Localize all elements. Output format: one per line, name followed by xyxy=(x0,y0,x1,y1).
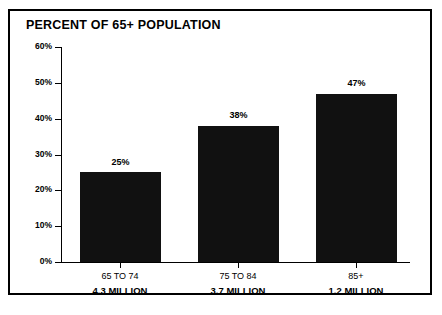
x-axis-category-sublabel-3: 1.2 MILLION xyxy=(296,286,416,296)
x-axis-tick-3 xyxy=(356,263,357,268)
y-axis-label-20: 20% xyxy=(16,185,52,194)
y-axis-label-0: 0% xyxy=(16,257,52,266)
x-axis-category-name-1: 65 TO 74 xyxy=(60,272,180,281)
y-axis-label-30: 30% xyxy=(16,150,52,159)
x-axis-category-name-3: 85+ xyxy=(296,272,416,281)
x-axis-tick-2 xyxy=(238,263,239,268)
bar-value-label-85-plus: 47% xyxy=(316,79,397,88)
x-axis-category-75-to-84: 75 TO 84 3.7 MILLION xyxy=(178,272,298,296)
y-axis-tick-30 xyxy=(55,155,61,156)
bar-75-to-84 xyxy=(198,126,279,262)
y-axis-label-50: 50% xyxy=(16,78,52,87)
x-axis-line xyxy=(61,262,410,263)
y-axis-label-40: 40% xyxy=(16,114,52,123)
chart-figure: PERCENT OF 65+ POPULATION 60% 50% 40% 30… xyxy=(0,0,442,315)
y-axis-tick-50 xyxy=(55,83,61,84)
chart-title: PERCENT OF 65+ POPULATION xyxy=(26,18,221,32)
bar-85-plus xyxy=(316,94,397,262)
y-axis-tick-10 xyxy=(55,226,61,227)
x-axis-category-65-to-74: 65 TO 74 4.3 MILLION xyxy=(60,272,180,296)
y-axis-tick-40 xyxy=(55,119,61,120)
bar-value-label-75-to-84: 38% xyxy=(198,111,279,120)
x-axis-category-85-plus: 85+ 1.2 MILLION xyxy=(296,272,416,296)
bar-65-to-74 xyxy=(80,172,161,262)
y-axis-tick-20 xyxy=(55,190,61,191)
x-axis-category-sublabel-2: 3.7 MILLION xyxy=(178,286,298,296)
y-axis-tick-0 xyxy=(55,262,61,263)
bar-value-label-65-to-74: 25% xyxy=(80,158,161,167)
x-axis-category-name-2: 75 TO 84 xyxy=(178,272,298,281)
y-axis-line xyxy=(61,47,62,263)
y-axis-tick-60 xyxy=(55,47,61,48)
y-axis-label-10: 10% xyxy=(16,221,52,230)
x-axis-tick-1 xyxy=(120,263,121,268)
x-axis-category-sublabel-1: 4.3 MILLION xyxy=(60,286,180,296)
y-axis-label-60: 60% xyxy=(16,42,52,51)
